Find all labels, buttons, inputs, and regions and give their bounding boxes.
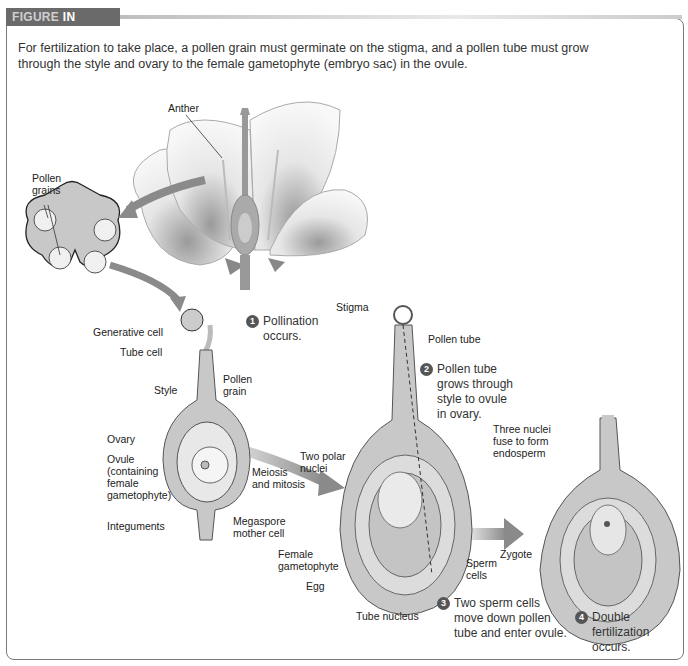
label-anther: Anther [168,102,199,114]
step-2: 2Pollen tube grows through style to ovul… [420,362,513,422]
label-egg: Egg [306,580,325,592]
step-number-badge: 2 [420,363,433,376]
label-pollen-grains: Pollen grains [32,172,61,196]
label-female-gametophyte: Female gametophyte [278,548,339,572]
flower-illustration [133,102,367,290]
label-megaspore-mother-cell: Megaspore mother cell [233,515,286,539]
label-stigma: Stigma [336,301,369,313]
step-3: 3Two sperm cells move down pollen tube a… [437,596,567,641]
label-generative-cell: Generative cell [93,326,163,338]
label-sperm-cells: Sperm cells [466,557,497,581]
step-number-badge: 4 [575,611,588,624]
pistil-2 [340,306,472,615]
step-number-badge: 3 [437,597,450,610]
label-zygote: Zygote [500,548,532,560]
label-ovary: Ovary [107,433,135,445]
label-style: Style [154,384,177,396]
label-tube-nucleus: Tube nucleus [356,610,419,622]
label-pollen-tube: Pollen tube [428,333,481,345]
step-number-badge: 1 [246,315,259,328]
step-1: 1Pollination occurs. [246,314,318,344]
label-two-polar-nuclei: Two polar nuclei [300,450,346,474]
step-4: 4Double fertilization occurs. [575,610,649,655]
label-ovule: Ovule (containing female gametophyte) [107,453,171,501]
label-pollen-grain: Pollen grain [223,373,252,397]
label-three-nuclei: Three nuclei fuse to form endosperm [493,423,551,459]
label-tube-cell: Tube cell [120,346,162,358]
label-meiosis-mitosis: Meiosis and mitosis [252,466,305,490]
label-integuments: Integuments [107,520,165,532]
